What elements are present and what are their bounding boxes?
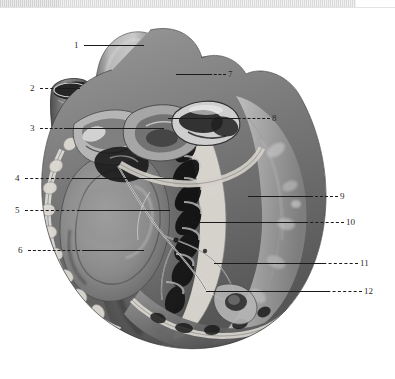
leader-line-1 [84,45,132,46]
leader-line-9 [300,196,338,197]
leader-11-inner [214,263,324,264]
leader-12-inner [206,291,328,292]
label-number-10: 10 [346,218,355,227]
leader-line-5 [25,210,85,211]
label-number-3: 3 [30,124,35,133]
label-number-2: 2 [30,84,35,93]
label-number-4: 4 [15,174,20,183]
figure-container: 123456 789101112 [0,0,395,379]
leader-line-4 [25,178,80,179]
leader-4-inner [72,178,182,179]
leader-line-7 [200,74,226,75]
label-number-12: 12 [364,287,373,296]
label-number-1: 1 [74,41,79,50]
heart-body [0,0,395,379]
heart-illustration [0,0,395,379]
label-number-9: 9 [340,192,345,201]
leader-line-2 [40,88,74,89]
leader-line-6 [28,250,90,251]
leader-line-11 [318,263,358,264]
label-number-6: 6 [18,246,23,255]
leader-line-3 [40,128,77,129]
leader-line-8 [228,118,270,119]
leader-line-12 [322,291,362,292]
label-number-11: 11 [360,259,369,268]
label-number-5: 5 [15,206,20,215]
label-number-7: 7 [228,70,233,79]
leader-10-inner [190,222,308,223]
leader-3-inner [64,128,164,129]
label-number-8: 8 [272,114,277,123]
leader-5-inner [78,210,170,211]
leader-line-10 [300,222,344,223]
leader-6-inner [84,250,144,251]
